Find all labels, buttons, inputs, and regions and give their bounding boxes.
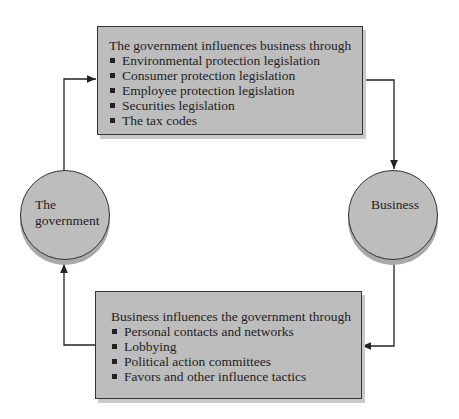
list-item: Lobbying <box>111 339 361 354</box>
business-node: Business <box>348 170 438 260</box>
bullet-icon <box>110 118 115 123</box>
bullet-icon <box>112 359 117 364</box>
bullet-icon <box>110 73 115 78</box>
business-influences-box: Business influences the government throu… <box>95 291 362 399</box>
bullet-icon <box>112 329 117 334</box>
list-item: Political action committees <box>111 354 361 369</box>
list-item: The tax codes <box>109 113 362 128</box>
list-item: Consumer protection legislation <box>109 68 362 83</box>
influence-list: Personal contacts and networks Lobbying … <box>111 324 361 384</box>
bullet-icon <box>112 374 117 379</box>
list-item: Favors and other influence tactics <box>111 369 361 384</box>
government-influences-box: The government influences business throu… <box>97 26 363 135</box>
bullet-icon <box>110 88 115 93</box>
government-node: The government <box>20 170 110 260</box>
bullet-icon <box>110 103 115 108</box>
box-title: The government influences business throu… <box>109 38 362 53</box>
box-title: Business influences the government throu… <box>111 309 361 324</box>
list-item: Employee protection legislation <box>109 83 362 98</box>
influence-list: Environmental protection legislation Con… <box>109 53 362 128</box>
list-item: Securities legislation <box>109 98 362 113</box>
bullet-icon <box>112 344 117 349</box>
node-label: Business <box>371 197 419 213</box>
node-label: The <box>35 197 56 213</box>
list-item: Personal contacts and networks <box>111 324 361 339</box>
node-label: government <box>35 213 99 229</box>
bullet-icon <box>110 58 115 63</box>
list-item: Environmental protection legislation <box>109 53 362 68</box>
